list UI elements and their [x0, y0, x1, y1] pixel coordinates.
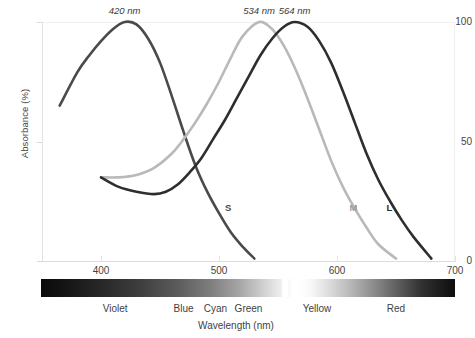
y-tick-50: 50: [438, 136, 472, 147]
curve-label-l: L: [386, 202, 392, 213]
x-tick-mark-400: [101, 256, 102, 262]
band-label-cyan: Cyan: [204, 303, 227, 314]
spectrum-bar: [41, 279, 455, 297]
y-tick-mark-100: [37, 22, 42, 23]
band-label-red: Red: [387, 303, 405, 314]
x-tick-400: 400: [81, 265, 121, 276]
y-tick-mark-0: [37, 261, 42, 262]
curve-l: [101, 22, 431, 259]
x-tick-mark-500: [219, 256, 220, 262]
x-tick-600: 600: [317, 265, 357, 276]
y-tick-100: 100: [438, 16, 472, 27]
peak-label-l: 564 nm: [279, 5, 311, 16]
x-tick-500: 500: [199, 265, 239, 276]
x-tick-mark-600: [337, 256, 338, 262]
y-tick-mark-50: [37, 142, 42, 143]
y-axis-title: Absorbance (%): [19, 69, 30, 179]
x-axis-title: Wavelength (nm): [0, 320, 472, 331]
band-label-blue: Blue: [174, 303, 194, 314]
peak-label-s: 420 nm: [109, 5, 141, 16]
band-label-green: Green: [235, 303, 263, 314]
curve-label-s: S: [225, 202, 231, 213]
curve-label-m: M: [349, 202, 357, 213]
curve-s: [60, 22, 255, 259]
peak-label-m: 534 nm: [243, 5, 275, 16]
spectrum-bar-gap: [282, 279, 288, 297]
x-tick-700: 700: [435, 265, 475, 276]
band-label-violet: Violet: [103, 303, 128, 314]
curve-m: [101, 22, 396, 259]
band-label-yellow: Yellow: [303, 303, 332, 314]
x-tick-mark-700: [455, 256, 456, 262]
